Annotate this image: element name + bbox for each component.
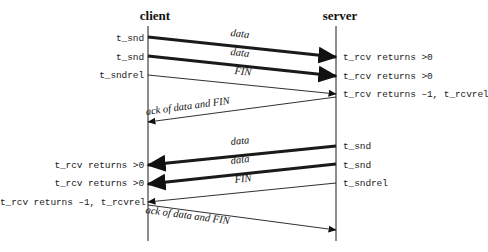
right-label-t-snd-1: t_snd — [343, 141, 371, 152]
right-label-t-rcv-1: t_rcv returns >0 — [343, 52, 433, 63]
message-data-s2c-2-text: data — [230, 153, 250, 166]
right-label-t-rcv-rel: t_rcv returns –1, t_rcvrel — [343, 89, 488, 100]
left-label-t-sndrel: t_sndrel — [0, 70, 144, 81]
left-label-t-rcv-rel: t_rcv returns –1, t_rcvrel — [0, 197, 144, 208]
message-fin-s2c-text: FIN — [234, 172, 252, 185]
message-fin-c2s-text: FIN — [234, 65, 252, 78]
left-label-t-rcv-1: t_rcv returns >0 — [0, 160, 144, 171]
message-data-c2s-1-text: data — [230, 27, 250, 40]
sequence-diagram-canvas: clientserver t_sndt_sndt_sndrelt_rcv ret… — [0, 0, 488, 252]
server-header: server — [323, 8, 358, 24]
left-label-t-rcv-2: t_rcv returns >0 — [0, 178, 144, 189]
right-label-t-sndrel: t_sndrel — [343, 178, 388, 189]
left-label-t-snd-1: t_snd — [0, 33, 144, 44]
message-fin-c2s — [148, 75, 336, 94]
client-header: client — [140, 8, 170, 24]
right-label-t-rcv-2: t_rcv returns >0 — [343, 71, 433, 82]
left-label-t-snd-2: t_snd — [0, 52, 144, 63]
message-data-s2c-1-text: data — [230, 134, 250, 147]
message-data-c2s-2-text: data — [230, 46, 250, 59]
right-label-t-snd-2: t_snd — [343, 160, 371, 171]
message-fin-s2c — [148, 183, 336, 202]
